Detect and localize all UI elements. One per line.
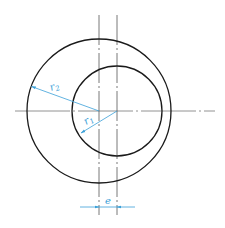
- e-label: e: [105, 195, 111, 206]
- r1-label: r1: [82, 113, 97, 129]
- eccentric-circles-drawing: r2 r1 e: [0, 0, 225, 228]
- r2-dimension-line: [32, 87, 100, 112]
- r2-label: r2: [48, 79, 62, 95]
